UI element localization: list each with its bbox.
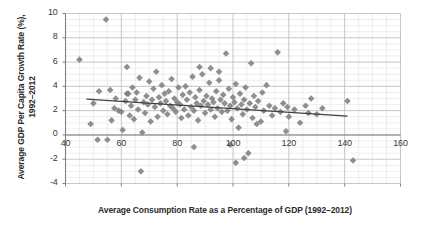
x-tick-label: 160	[389, 138, 413, 148]
scatter-chart: Average GDP Per Capita Growth Rate (%), …	[0, 0, 424, 229]
x-tick-label: 140	[333, 138, 357, 148]
y-tick-label: -4	[36, 177, 58, 187]
x-tick-label: 100	[221, 138, 245, 148]
plot-canvas	[0, 0, 424, 229]
y-tick-label: -2	[36, 153, 58, 163]
y-tick-label: 2	[36, 104, 58, 114]
y-tick-label: 10	[36, 7, 58, 17]
x-tick-label: 80	[165, 138, 189, 148]
x-tick-label: 60	[109, 138, 133, 148]
x-tick-label: 40	[54, 138, 78, 148]
y-tick-label: 4	[36, 80, 58, 90]
x-tick-label: 120	[277, 138, 301, 148]
y-tick-label: 0	[36, 128, 58, 138]
y-tick-label: 8	[36, 31, 58, 41]
y-tick-label: 6	[36, 56, 58, 66]
